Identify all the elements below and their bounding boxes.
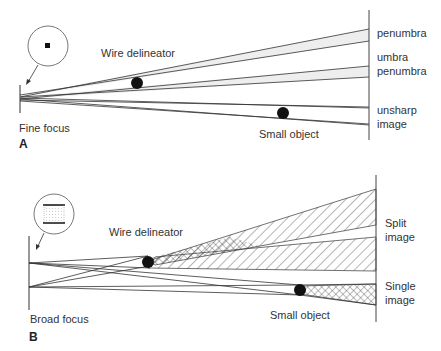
wire-delineator-a (131, 77, 143, 89)
split-label: Split (385, 217, 406, 230)
small-object-a (277, 107, 289, 119)
panel-b-letter: B (29, 330, 38, 344)
focal-spot-diagram (0, 0, 441, 351)
small-object-label-b: Small object (270, 309, 330, 322)
fine-focus-inset-icon (26, 26, 68, 85)
panel-b (29, 175, 376, 322)
single-image-label: image (385, 294, 415, 307)
penumbra-bottom-label: penumbra (377, 65, 427, 78)
umbra-label: umbra (377, 51, 408, 64)
wire-delineator-label-b: Wire delineator (109, 226, 183, 239)
single-label: Single (385, 280, 416, 293)
small-object-label-a: Small object (259, 128, 319, 141)
unsharp-image-label: image (377, 118, 407, 131)
broad-focus-inset-icon (34, 194, 74, 250)
broad-focus-label: Broad focus (30, 313, 89, 326)
fine-focus-label: Fine focus (19, 122, 70, 135)
penumbra-top-label: penumbra (377, 27, 427, 40)
wire-delineator-b (142, 256, 154, 268)
small-object-b (294, 284, 306, 296)
panel-a-letter: A (19, 137, 28, 151)
split-image-label: image (385, 231, 415, 244)
panel-a (20, 10, 369, 140)
single-image-crosshatch (300, 284, 376, 305)
unsharp-label: unsharp (377, 104, 417, 117)
wire-delineator-label-a: Wire delineator (101, 47, 175, 60)
